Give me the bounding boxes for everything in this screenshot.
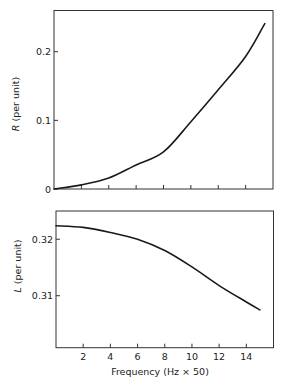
- bottom-x-ticks: 2468101214: [80, 344, 252, 362]
- top-y-ticks: 00.10.2: [36, 46, 58, 194]
- top-plot-frame: [54, 11, 273, 190]
- bottom-y-axis-label: L (per unit): [12, 240, 23, 293]
- resistance-plot: 00.10.2 R (per unit): [10, 11, 273, 195]
- y-tick-label: 0.2: [36, 46, 51, 57]
- x-tick-label: 12: [213, 351, 225, 362]
- x-axis-label: Frequency (Hz × 50): [111, 366, 209, 377]
- x-tick-label: 6: [135, 351, 141, 362]
- figure: 00.10.2 R (per unit) 2468101214 0.310.32…: [0, 0, 287, 388]
- y-tick-label: 0: [45, 184, 51, 195]
- top-y-axis-label: R (per unit): [10, 77, 21, 131]
- x-tick-label: 8: [162, 351, 168, 362]
- bottom-plot-frame: [56, 211, 274, 348]
- inductance-curve: [56, 226, 260, 310]
- y-tick-label: 0.31: [32, 290, 53, 301]
- y-tick-label: 0.32: [32, 234, 53, 245]
- x-tick-label: 4: [107, 351, 113, 362]
- x-tick-label: 2: [80, 351, 86, 362]
- y-tick-label: 0.1: [36, 115, 51, 126]
- x-tick-label: 14: [240, 351, 252, 362]
- inductance-plot: 2468101214 0.310.32 L (per unit) Frequen…: [12, 211, 274, 377]
- x-tick-label: 10: [186, 351, 198, 362]
- resistance-curve: [54, 24, 265, 189]
- top-x-ticks: [81, 185, 245, 189]
